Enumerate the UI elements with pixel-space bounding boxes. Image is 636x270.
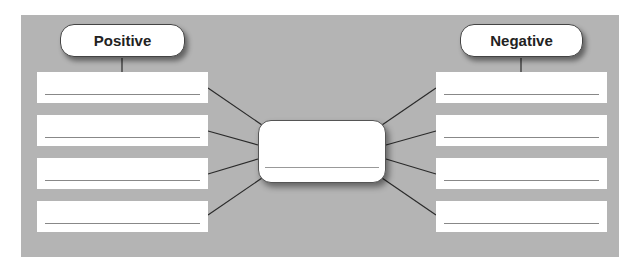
- negative-entry-1[interactable]: [436, 72, 607, 103]
- writing-line: [45, 137, 200, 138]
- positive-entry-3[interactable]: [37, 158, 208, 189]
- writing-line: [45, 180, 200, 181]
- negative-entry-3[interactable]: [436, 158, 607, 189]
- writing-line: [45, 223, 200, 224]
- negative-header: Negative: [460, 24, 583, 57]
- negative-entry-4[interactable]: [436, 201, 607, 232]
- writing-line: [444, 94, 599, 95]
- negative-label: Negative: [490, 32, 553, 49]
- positive-entry-1[interactable]: [37, 72, 208, 103]
- writing-line: [45, 94, 200, 95]
- positive-header: Positive: [60, 24, 185, 57]
- positive-entry-4[interactable]: [37, 201, 208, 232]
- positive-label: Positive: [94, 32, 152, 49]
- writing-line: [444, 137, 599, 138]
- writing-line: [265, 167, 379, 168]
- positive-entry-2[interactable]: [37, 115, 208, 146]
- writing-line: [444, 180, 599, 181]
- central-topic-box[interactable]: [258, 120, 386, 183]
- negative-entry-2[interactable]: [436, 115, 607, 146]
- writing-line: [444, 223, 599, 224]
